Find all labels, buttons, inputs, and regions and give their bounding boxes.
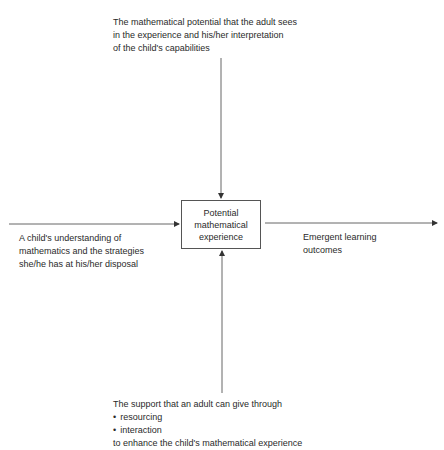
top-text-line: of the child's capabilities: [113, 42, 297, 55]
bottom-text-bullet-resourcing: resourcing: [113, 411, 302, 424]
bottom-text-block: The support that an adult can give throu…: [113, 398, 302, 450]
center-box-line: Potential: [203, 207, 238, 219]
top-text-line: The mathematical potential that the adul…: [113, 16, 297, 29]
right-text-line: outcomes: [303, 244, 377, 257]
bottom-text-intro: The support that an adult can give throu…: [113, 398, 302, 411]
right-text-block: Emergent learning outcomes: [303, 231, 377, 257]
bottom-text-outro: to enhance the child's mathematical expe…: [113, 437, 302, 450]
center-box-line: experience: [199, 231, 243, 243]
left-text-line: mathematics and the strategies: [19, 245, 144, 258]
center-box-line: mathematical: [194, 219, 248, 231]
center-box-potential-mathematical-experience: Potential mathematical experience: [181, 200, 261, 249]
right-text-line: Emergent learning: [303, 231, 377, 244]
top-text-block: The mathematical potential that the adul…: [113, 16, 297, 55]
left-text-line: she/he has at his/her disposal: [19, 258, 144, 271]
bottom-text-bullet-interaction: interaction: [113, 424, 302, 437]
left-text-line: A child's understanding of: [19, 232, 144, 245]
top-text-line: in the experience and his/her interpreta…: [113, 29, 297, 42]
left-text-block: A child's understanding of mathematics a…: [19, 232, 144, 271]
